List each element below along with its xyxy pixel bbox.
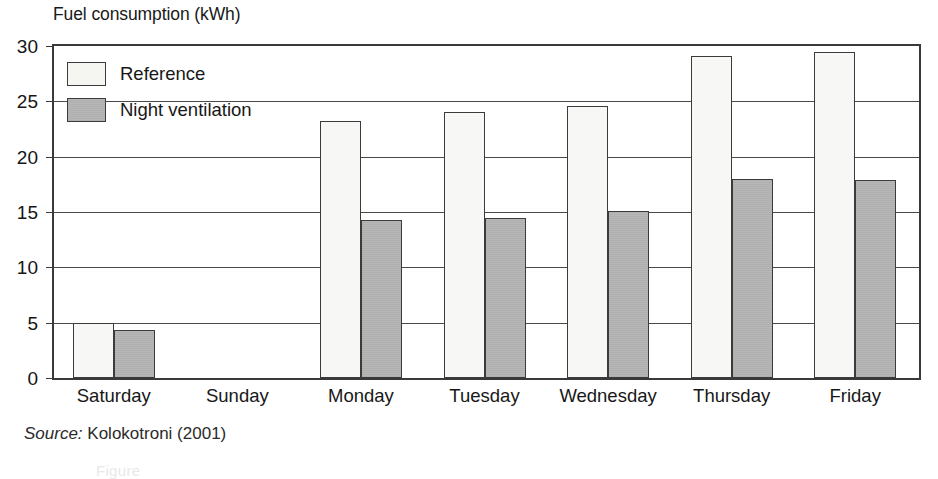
y-tick-label-25: 25	[17, 92, 38, 111]
bar-tuesday-reference	[444, 112, 485, 378]
gridline-20	[54, 157, 919, 158]
chart-axis-title: Fuel consumption (kWh)	[53, 4, 240, 25]
legend-label-night-ventilation: Night ventilation	[120, 99, 252, 121]
bar-thursday-night	[732, 179, 773, 378]
legend-item-reference: Reference	[67, 56, 252, 92]
bar-saturday-reference	[73, 323, 114, 378]
bar-monday-night	[361, 220, 402, 378]
bar-wednesday-night	[608, 211, 649, 378]
bar-thursday-reference	[691, 56, 732, 378]
bar-tuesday-night	[485, 218, 526, 378]
y-axis-labels: 302520151050	[0, 44, 48, 380]
y-tick-mark-0	[46, 378, 54, 379]
y-tick-mark-25	[46, 101, 54, 102]
x-axis-labels: SaturdaySundayMondayTuesdayWednesdayThur…	[52, 387, 921, 415]
bar-friday-night	[855, 180, 896, 378]
y-tick-label-20: 20	[17, 147, 38, 166]
bar-saturday-night	[114, 330, 155, 378]
y-tick-label-15: 15	[17, 203, 38, 222]
y-tick-mark-10	[46, 267, 54, 268]
plot-area: Reference Night ventilation	[52, 44, 921, 380]
y-tick-label-10: 10	[17, 258, 38, 277]
y-tick-label-30: 30	[17, 37, 38, 56]
y-tick-label-0: 0	[27, 369, 38, 388]
y-tick-mark-15	[46, 212, 54, 213]
x-tick-label-sunday: Sunday	[206, 387, 269, 406]
legend-swatch-reference-icon	[67, 62, 106, 86]
y-tick-mark-5	[46, 323, 54, 324]
x-tick-label-monday: Monday	[328, 387, 394, 406]
x-tick-label-wednesday: Wednesday	[559, 387, 656, 406]
bar-monday-reference	[320, 121, 361, 378]
x-tick-label-thursday: Thursday	[693, 387, 770, 406]
y-tick-mark-30	[46, 46, 54, 47]
legend-label-reference: Reference	[120, 63, 205, 85]
bar-wednesday-reference	[567, 106, 608, 378]
bar-friday-reference	[814, 52, 855, 378]
x-tick-label-friday: Friday	[830, 387, 881, 406]
chart-legend: Reference Night ventilation	[67, 56, 252, 128]
cropped-figure-caption: Figure	[96, 462, 140, 479]
y-tick-label-5: 5	[27, 313, 38, 332]
x-tick-label-tuesday: Tuesday	[449, 387, 519, 406]
gridline-15	[54, 212, 919, 213]
source-text: Kolokotroni (2001)	[87, 424, 226, 443]
legend-swatch-night-ventilation-icon	[67, 98, 106, 122]
source-note: Source: Kolokotroni (2001)	[24, 424, 226, 444]
x-tick-label-saturday: Saturday	[77, 387, 151, 406]
source-prefix: Source:	[24, 424, 83, 443]
y-tick-mark-20	[46, 157, 54, 158]
legend-item-night-ventilation: Night ventilation	[67, 92, 252, 128]
